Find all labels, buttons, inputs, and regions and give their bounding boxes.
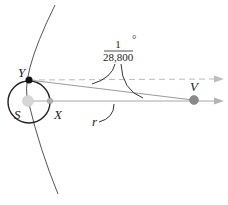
- label-r: r: [92, 114, 98, 129]
- diagram-canvas: Y S X V r 1 28,800 °: [0, 0, 228, 205]
- solid-arrowhead-icon: [214, 98, 224, 105]
- dashed-sightline: [29, 79, 216, 80]
- angle-denominator: 28,800: [103, 51, 134, 63]
- angle-numerator: 1: [115, 38, 121, 50]
- angle-degree-symbol: °: [132, 33, 136, 45]
- label-s: S: [14, 107, 21, 122]
- label-y: Y: [18, 65, 27, 80]
- point-x-icon: [47, 98, 53, 104]
- angle-pointer-left: [92, 64, 115, 84]
- label-x: X: [53, 107, 63, 122]
- point-y-icon: [26, 77, 33, 84]
- sun-s-icon: [23, 96, 34, 107]
- dashed-arrowhead-icon: [214, 76, 224, 83]
- planet-v-icon: [190, 96, 199, 105]
- sightline-y-v: [29, 80, 193, 100]
- r-pointer: [99, 104, 114, 122]
- label-v: V: [190, 79, 200, 94]
